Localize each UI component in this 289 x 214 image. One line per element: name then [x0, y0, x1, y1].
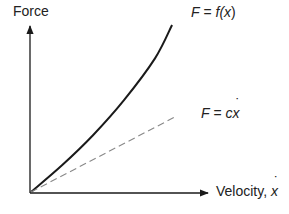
eq2-coef: c: [226, 105, 233, 121]
eq2-equals: =: [210, 105, 226, 121]
eq1-equals: =: [200, 4, 216, 20]
diagram-canvas: [0, 0, 289, 214]
eq1-func: f(: [216, 4, 225, 20]
eq1-var: x: [224, 5, 231, 19]
x-axis-label: Velocity, x: [216, 184, 278, 198]
linear-force-line: [31, 117, 175, 192]
eq1-close: ): [231, 4, 236, 20]
eq2-lhs: F: [201, 105, 210, 121]
linear-curve-label: F = cx: [201, 106, 240, 120]
x-dot-symbol: x: [271, 184, 278, 198]
nonlinear-force-curve: [31, 25, 172, 192]
x-axis-label-text: Velocity,: [216, 183, 271, 199]
y-axis-label: Force: [13, 4, 49, 18]
eq2-var: x: [233, 106, 240, 120]
nonlinear-curve-label: F = f(x): [191, 5, 236, 19]
eq1-lhs: F: [191, 4, 200, 20]
